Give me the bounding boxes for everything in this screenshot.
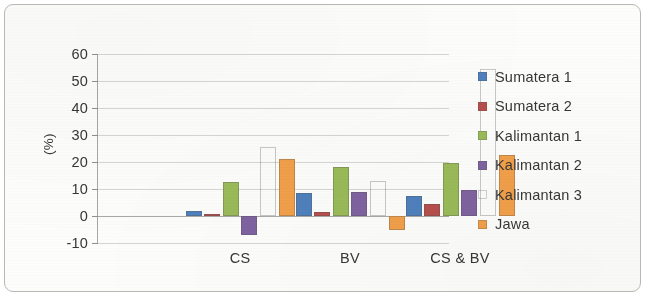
bar-cs-sumatera-1 [186, 211, 202, 216]
bar-cs-bv-sumatera-2 [424, 204, 440, 216]
legend-swatch-icon [478, 72, 487, 81]
figure-frame: 6050403020100-10 CSBVCS & BV (%) Sumater… [4, 4, 641, 292]
legend-label: Jawa [495, 216, 530, 232]
legend-swatch-icon [478, 161, 487, 170]
y-tick-10 [92, 189, 98, 190]
legend-swatch-icon [478, 102, 487, 111]
y-tick--10 [92, 243, 98, 244]
y-tick-label-0: 0 [80, 208, 88, 224]
y-tick-40 [92, 108, 98, 109]
y-axis-line [97, 54, 98, 243]
y-tick-label--10: -10 [66, 235, 88, 251]
bar-cs-bv-kalimantan-2 [461, 190, 477, 216]
legend-label: Kalimantan 3 [495, 187, 582, 203]
legend-item-jawa[interactable]: Jawa [478, 210, 638, 240]
bar-bv-kalimantan-1 [333, 167, 349, 216]
legend-item-sumatera-2[interactable]: Sumatera 2 [478, 92, 638, 122]
legend-swatch-icon [478, 190, 487, 199]
legend-swatch-icon [478, 220, 487, 229]
y-tick-0 [92, 216, 98, 217]
bar-cs-kalimantan-2 [241, 216, 257, 235]
y-tick-label-40: 40 [71, 100, 88, 116]
bar-bv-kalimantan-3 [370, 181, 386, 216]
bar-cs-jawa [279, 159, 295, 216]
legend-item-kalimantan-1[interactable]: Kalimantan 1 [478, 121, 638, 151]
bar-cs-sumatera-2 [204, 214, 220, 216]
bar-bv-jawa [389, 216, 405, 230]
legend-label: Sumatera 1 [495, 69, 572, 85]
chart-legend: Sumatera 1Sumatera 2Kalimantan 1Kalimant… [478, 62, 638, 239]
y-tick-label-30: 30 [71, 127, 88, 143]
gridline--10 [97, 243, 449, 244]
bar-bv-sumatera-1 [296, 193, 312, 216]
bar-bv-sumatera-2 [314, 212, 330, 216]
legend-label: Sumatera 2 [495, 98, 572, 114]
gridline-50 [97, 81, 449, 82]
bar-bv-kalimantan-2 [351, 192, 367, 216]
y-tick-50 [92, 81, 98, 82]
x-axis-label-2: CS & BV [390, 250, 530, 266]
legend-label: Kalimantan 2 [495, 157, 582, 173]
y-axis-title: (%) [41, 133, 56, 155]
bar-cs-bv-kalimantan-1 [443, 163, 459, 216]
legend-swatch-icon [478, 131, 487, 140]
gridline-30 [97, 135, 449, 136]
y-tick-20 [92, 162, 98, 163]
y-tick-label-50: 50 [71, 73, 88, 89]
legend-item-kalimantan-3[interactable]: Kalimantan 3 [478, 180, 638, 210]
y-tick-label-60: 60 [71, 46, 88, 62]
y-tick-60 [92, 54, 98, 55]
gridline-40 [97, 108, 449, 109]
y-tick-label-10: 10 [71, 181, 88, 197]
chart-plot-area: 6050403020100-10 CSBVCS & BV [97, 54, 449, 243]
y-tick-label-20: 20 [71, 154, 88, 170]
bar-cs-bv-sumatera-1 [406, 196, 422, 216]
bar-cs-kalimantan-3 [260, 147, 276, 216]
y-tick-30 [92, 135, 98, 136]
gridline-60 [97, 54, 449, 55]
legend-item-kalimantan-2[interactable]: Kalimantan 2 [478, 151, 638, 181]
legend-label: Kalimantan 1 [495, 128, 582, 144]
bar-cs-kalimantan-1 [223, 182, 239, 216]
legend-item-sumatera-1[interactable]: Sumatera 1 [478, 62, 638, 92]
